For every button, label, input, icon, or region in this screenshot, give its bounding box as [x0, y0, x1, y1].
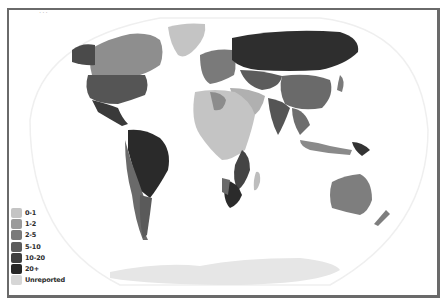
- world-map: [0, 0, 446, 306]
- region-russia: [232, 31, 358, 71]
- legend-label: 10-20: [25, 254, 45, 262]
- region-europe: [200, 50, 236, 84]
- region-usa: [86, 75, 147, 104]
- legend-label: 2-5: [25, 231, 36, 239]
- legend-swatch: [11, 242, 22, 252]
- legend-item: 5-10: [11, 241, 65, 252]
- legend-label: 1-2: [25, 220, 36, 228]
- region-mexico: [92, 100, 128, 126]
- legend-swatch: [11, 264, 22, 274]
- legend-label: 20+: [25, 265, 39, 273]
- legend-item: 0-1: [11, 207, 65, 218]
- region-southeast-asia: [292, 108, 310, 135]
- legend-swatch: [11, 230, 22, 240]
- legend-item: Unreported: [11, 275, 65, 286]
- map-legend: 0-1 1-2 2-5 5-10 10-20 20+ Unreported: [11, 207, 65, 286]
- region-madagascar: [254, 172, 260, 191]
- legend-swatch: [11, 219, 22, 229]
- legend-item: 1-2: [11, 218, 65, 229]
- region-china: [281, 75, 332, 110]
- legend-item: 20+: [11, 263, 65, 274]
- legend-label: 5-10: [25, 243, 40, 251]
- region-antarctica: [110, 258, 340, 285]
- legend-swatch: [11, 275, 22, 285]
- region-indonesia: [300, 140, 352, 155]
- region-central-asia: [240, 70, 282, 90]
- region-japan: [337, 75, 344, 92]
- legend-swatch: [11, 208, 22, 218]
- region-new-zealand: [374, 210, 390, 226]
- legend-item: 2-5: [11, 230, 65, 241]
- legend-item: 10-20: [11, 252, 65, 263]
- region-east-africa: [234, 150, 250, 190]
- region-greenland: [168, 23, 205, 56]
- region-australia: [330, 174, 372, 215]
- legend-swatch: [11, 253, 22, 263]
- legend-label: Unreported: [25, 276, 65, 284]
- region-new-guinea: [352, 142, 370, 156]
- legend-label: 0-1: [25, 209, 36, 217]
- region-alaska: [72, 44, 95, 65]
- region-canada: [90, 34, 163, 75]
